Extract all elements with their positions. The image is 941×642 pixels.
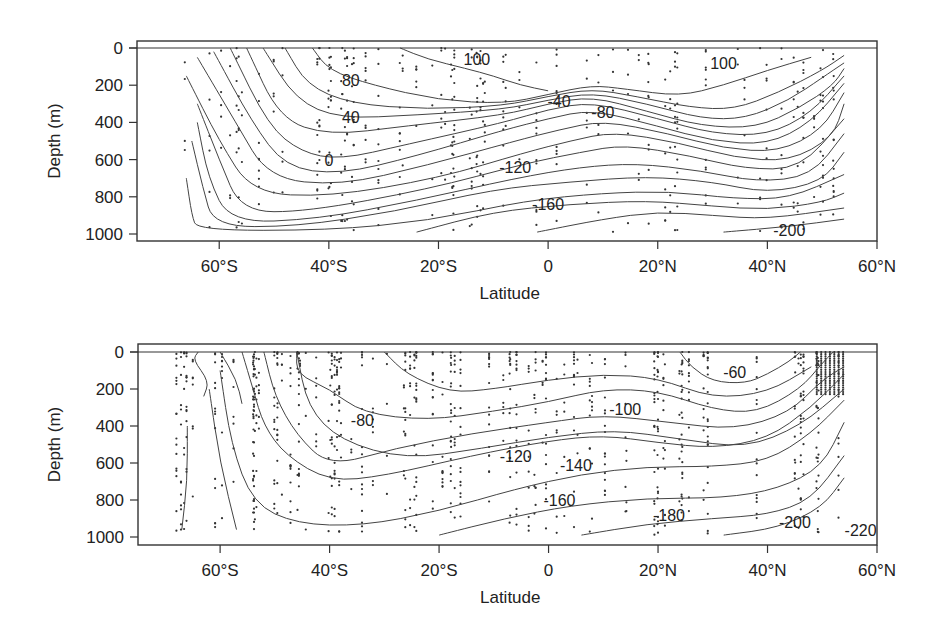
y-tick-label: 1000 — [86, 528, 124, 547]
x-tick-label: 40°N — [749, 561, 787, 580]
contour-line--180 — [209, 389, 236, 530]
contour-label: -140 — [560, 457, 592, 474]
contour-label: 40 — [342, 109, 360, 126]
contour-label: -200 — [779, 514, 811, 531]
bottom-contour-panel: -60-80-100-120-140-160-180-200-220020040… — [45, 343, 896, 607]
figure-canvas: 10080400100-40-80-120-160-20002004006008… — [0, 0, 941, 642]
x-axis-label: Latitude — [479, 284, 540, 303]
contour-label: -180 — [653, 507, 685, 524]
contour-line--140 — [297, 352, 845, 456]
x-tick-label: 20°S — [420, 257, 457, 276]
contour-line--180 — [182, 426, 188, 530]
x-tick-label: 40°S — [311, 561, 348, 580]
top-contour-panel: 10080400100-40-80-120-160-20002004006008… — [45, 39, 896, 303]
x-tick-label: 60°S — [201, 257, 238, 276]
y-tick-label: 400 — [95, 113, 123, 132]
contour-label: -160 — [543, 492, 575, 509]
contour-line--120 — [264, 352, 844, 461]
contour-labels: 10080400100-40-80-120-160-200 — [324, 51, 805, 239]
contour-label: -120 — [499, 159, 531, 176]
contour-label: 80 — [342, 72, 360, 89]
contour-label: -160 — [532, 196, 564, 213]
y-tick-label: 600 — [96, 454, 124, 473]
x-axis-ticks: 60°S40°S20°S020°N40°N60°N — [202, 545, 896, 580]
contour-line--60 — [195, 352, 207, 396]
y-tick-label: 400 — [96, 417, 124, 436]
y-tick-label: 0 — [114, 39, 123, 58]
contour-label: 0 — [324, 152, 333, 169]
x-tick-label: 60°N — [858, 257, 896, 276]
x-axis-ticks: 60°S40°S20°S020°N40°N60°N — [201, 241, 896, 276]
contour-line--20 — [214, 52, 844, 172]
y-axis-label: Depth (m) — [45, 407, 64, 483]
y-axis-ticks: 02004006008001000 — [86, 343, 138, 547]
x-tick-label: 60°S — [202, 561, 239, 580]
x-tick-label: 0 — [544, 561, 553, 580]
x-tick-label: 40°S — [310, 257, 347, 276]
contour-line--100 — [384, 352, 811, 396]
y-tick-label: 0 — [115, 343, 124, 362]
y-tick-label: 200 — [95, 76, 123, 95]
x-tick-label: 20°S — [421, 561, 458, 580]
contour-line--120 — [192, 141, 844, 227]
contour-label: 100 — [464, 51, 491, 68]
contour-line--80 — [297, 352, 834, 418]
y-tick-label: 200 — [96, 380, 124, 399]
x-tick-label: 20°N — [639, 257, 677, 276]
contour-label: 100 — [710, 55, 737, 72]
y-tick-label: 800 — [96, 491, 124, 510]
contour-line--80 — [220, 352, 242, 404]
contour-label: -100 — [609, 401, 641, 418]
y-axis-ticks: 02004006008001000 — [85, 39, 137, 244]
contour-label: -60 — [723, 364, 746, 381]
y-axis-label: Depth (m) — [45, 103, 64, 179]
contour-label: -80 — [591, 104, 614, 121]
contour-label: -40 — [548, 93, 571, 110]
y-tick-label: 600 — [95, 151, 123, 170]
contour-label: -200 — [773, 222, 805, 239]
x-tick-label: 20°N — [639, 561, 677, 580]
x-tick-label: 0 — [543, 257, 552, 276]
x-axis-label: Latitude — [480, 588, 541, 607]
y-tick-label: 1000 — [85, 225, 123, 244]
contour-lines — [186, 48, 844, 232]
contour-label: -120 — [500, 448, 532, 465]
contour-line--140 — [186, 175, 844, 231]
x-tick-label: 60°N — [858, 561, 896, 580]
contour-label: -80 — [351, 412, 374, 429]
contour-label: -220 — [845, 522, 877, 539]
x-tick-label: 40°N — [748, 257, 786, 276]
y-tick-label: 800 — [95, 188, 123, 207]
